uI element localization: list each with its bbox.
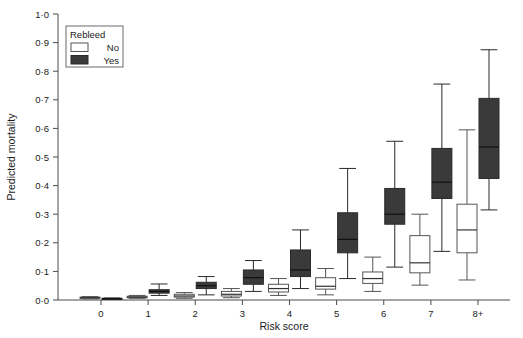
legend-label-no: No — [107, 42, 119, 53]
box-no-1 — [127, 295, 147, 298]
box-rect — [385, 188, 405, 224]
y-tick-label: 0·6 — [35, 123, 49, 134]
x-tick-label: 0 — [98, 308, 103, 319]
x-axis-title: Risk score — [259, 320, 308, 332]
x-tick-label: 1 — [145, 308, 150, 319]
y-tick-label: 0·9 — [35, 37, 49, 48]
y-tick-label: 0·0 — [35, 295, 49, 306]
y-axis-title: Predicted mortality — [5, 113, 17, 201]
x-tick-label: 2 — [193, 308, 198, 319]
box-rect — [432, 148, 452, 198]
box-rect — [338, 213, 358, 253]
x-tick-label: 8+ — [473, 308, 484, 319]
y-tick-label: 0·1 — [35, 266, 49, 277]
box-rect — [457, 204, 477, 253]
y-tick-label: 0·8 — [35, 66, 49, 77]
y-tick-label: 0·4 — [35, 180, 49, 191]
chart-canvas: 0·00·10·20·30·40·50·60·70·80·91·00123456… — [0, 0, 523, 338]
box-yes-0 — [102, 298, 122, 299]
y-tick-label: 1·0 — [35, 9, 49, 20]
x-tick-label: 4 — [287, 308, 292, 319]
box-no-4 — [269, 279, 289, 296]
box-yes-7 — [432, 84, 452, 251]
box-yes-5 — [338, 168, 358, 278]
y-tick-label: 0·2 — [35, 237, 49, 248]
box-yes-8+ — [479, 50, 499, 210]
legend-title: Rebleed — [70, 29, 105, 40]
box-yes-1 — [149, 284, 169, 295]
box-yes-3 — [243, 261, 263, 292]
x-tick-label: 3 — [240, 308, 245, 319]
box-no-6 — [363, 257, 383, 291]
box-yes-2 — [196, 277, 216, 295]
box-rect — [291, 250, 311, 277]
box-plot-figure: 0·00·10·20·30·40·50·60·70·80·91·00123456… — [0, 0, 523, 338]
box-rect — [316, 278, 336, 289]
box-yes-6 — [385, 141, 405, 267]
box-no-5 — [316, 269, 336, 295]
y-tick-label: 0·3 — [35, 209, 49, 220]
x-tick-label: 5 — [334, 308, 339, 319]
box-rect — [363, 272, 383, 283]
box-no-8+ — [457, 130, 477, 280]
box-no-3 — [221, 289, 241, 298]
box-rect — [410, 236, 430, 273]
x-tick-label: 6 — [381, 308, 386, 319]
legend-swatch-yes — [71, 56, 88, 65]
y-tick-label: 0·5 — [35, 152, 49, 163]
x-tick-label: 7 — [428, 308, 433, 319]
box-rect — [479, 98, 499, 178]
legend-label-yes: Yes — [104, 55, 120, 66]
box-no-0 — [80, 297, 100, 299]
box-no-7 — [410, 214, 430, 285]
box-yes-4 — [291, 230, 311, 289]
box-no-2 — [174, 293, 194, 299]
legend-swatch-no — [71, 43, 88, 52]
y-tick-label: 0·7 — [35, 94, 49, 105]
